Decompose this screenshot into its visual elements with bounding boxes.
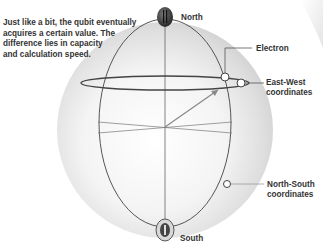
east-west-label: East-West coordinates [266, 78, 312, 98]
north-label: North [181, 13, 203, 23]
south-label: South [180, 234, 203, 244]
east-west-point [237, 79, 245, 87]
north-pole-icon [157, 7, 173, 27]
north-south-point [224, 181, 231, 188]
electron-label: Electron [256, 44, 289, 54]
north-south-label: North-South coordinates [267, 180, 315, 200]
electron-point [221, 73, 229, 81]
caption-text: Just like a bit, the qubit eventually ac… [3, 18, 153, 60]
corner-shade [300, 0, 323, 48]
